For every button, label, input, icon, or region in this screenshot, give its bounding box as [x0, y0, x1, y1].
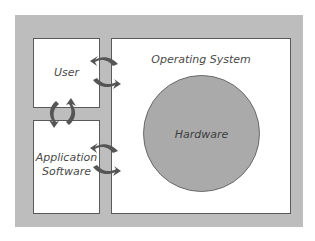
arrow-user-to-os-icon	[93, 78, 121, 89]
arrow-os-to-user-icon	[90, 56, 118, 66]
arrow-app-to-os-icon	[93, 165, 121, 176]
arrow-user-to-app-icon	[49, 101, 59, 128]
connection-arrows	[0, 0, 315, 241]
arrow-os-to-app-icon	[90, 143, 118, 153]
arrow-app-to-user-icon	[66, 98, 76, 125]
